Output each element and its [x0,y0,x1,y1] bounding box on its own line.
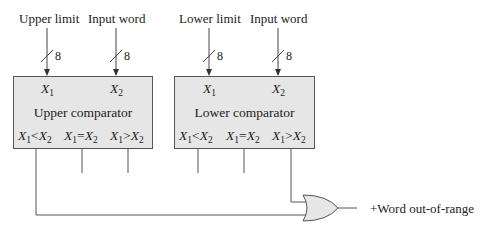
port-x1: X1 [41,82,54,99]
port-x2: X2 [272,82,285,99]
output-gt: X1>X2 [110,129,144,146]
input-label-lower-limit: Lower limit [179,12,241,25]
output-lt: X1<X2 [179,129,213,146]
block-title: Lower comparator [175,105,314,121]
input-label-upper-limit: Upper limit [19,12,79,25]
port-x2: X2 [110,82,123,99]
output-lt: X1<X2 [18,129,52,146]
word-out-of-range-label: +Word out-of-range [370,202,474,215]
output-eq: X1=X2 [226,129,260,146]
or-gate [303,195,338,221]
input-label-input-word-2: Input word [250,12,307,25]
arrowheads [44,69,281,76]
bus-width-label: 8 [217,49,223,64]
port-x1: X1 [203,82,216,99]
comparator-range-diagram: Upper limit Input word Lower limit Input… [0,0,481,235]
bus-width-label: 8 [286,49,292,64]
output-eq: X1=X2 [64,129,98,146]
lower-comparator-block: X1 X2 Lower comparator X1<X2 X1=X2 X1>X2 [174,76,315,149]
upper-comparator-block: X1 X2 Upper comparator X1<X2 X1=X2 X1>X2 [13,76,153,149]
input-lines [41,28,284,74]
bus-width-label: 8 [124,49,130,64]
bus-width-label: 8 [55,49,61,64]
output-gt: X1>X2 [272,129,306,146]
input-label-input-word-1: Input word [88,12,145,25]
block-title: Upper comparator [14,105,152,121]
